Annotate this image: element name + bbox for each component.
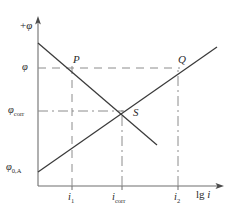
point-label-q: Q [178,54,186,65]
point-label-s: S [133,107,139,118]
x-axis-title-prefix: lg [196,188,205,200]
x-tick-label-i2-sub: 2 [177,197,180,204]
y-tick-label-phi-corr-sub: corr [14,110,24,117]
x-tick-label-i1: i1 [68,192,74,205]
tick-marks-group [72,186,178,190]
axes-group [35,16,224,189]
y-tick-label-phi-0A-sub: 0,A [12,167,22,174]
x-axis-title: lg i [196,189,210,200]
x-tick-label-icorr-sub: corr [115,197,125,204]
x-tick-label-icorr: icorr [112,192,125,205]
polarization-curves-group [38,43,217,172]
x-tick-label-i2: i2 [174,192,180,205]
y-tick-label-phi-0A: φ0,A [6,162,21,175]
x-tick-label-i1-sub: 1 [71,197,74,204]
plot-canvas [0,0,249,211]
point-label-p: P [73,54,80,65]
y-axis-title: +φ [20,20,32,31]
y-axis-title-symbol: φ [26,19,32,31]
x-axis-title-symbol: i [207,188,210,200]
y-tick-label-phi: φ [22,62,28,73]
y-tick-label-phi-corr: φcorr [8,105,24,118]
guide-lines-group [38,66,180,186]
evans-polarization-diagram: +φ lg i φ φcorr φ0,A i1 icorr i2 P S Q [0,0,249,211]
y-tick-label-phi-symbol: φ [22,61,28,72]
